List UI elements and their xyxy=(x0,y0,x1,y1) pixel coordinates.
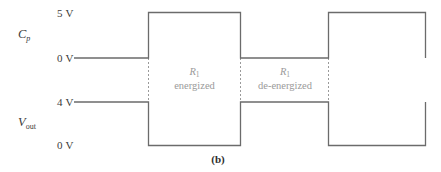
region-label-energized: R1 energized xyxy=(149,65,240,92)
waveform-trace-cp xyxy=(74,13,426,59)
region-symbol-energized: R1 xyxy=(189,66,199,77)
region-symbol-de-energized-sub: 1 xyxy=(286,70,290,79)
cp-high-level-label: 5 V xyxy=(57,7,74,19)
vout-low-level-label: 0 V xyxy=(57,139,74,151)
region-symbol-energized-main: R xyxy=(189,66,195,77)
waveform-trace-vout xyxy=(74,102,426,146)
region-symbol-energized-sub: 1 xyxy=(196,70,200,79)
figure-caption: (b) xyxy=(178,153,258,165)
region-state-energized: energized xyxy=(174,80,215,91)
signal-label-vout-sub: out xyxy=(26,122,36,131)
vout-high-level-label: 4 V xyxy=(57,96,74,108)
signal-label-cp: Cp xyxy=(18,27,30,42)
signal-label-vout-main: V xyxy=(18,115,26,129)
cp-low-level-label: 0 V xyxy=(57,52,74,64)
region-label-de-energized: R1 de-energized xyxy=(241,65,329,92)
signal-label-cp-sub: p xyxy=(26,34,30,43)
timing-diagram-figure: 5 V Cp 0 V 4 V Vout 0 V R1 energized R1 … xyxy=(0,0,441,172)
region-symbol-de-energized: R1 xyxy=(280,66,290,77)
region-state-de-energized: de-energized xyxy=(258,80,312,91)
signal-label-vout: Vout xyxy=(18,115,36,130)
